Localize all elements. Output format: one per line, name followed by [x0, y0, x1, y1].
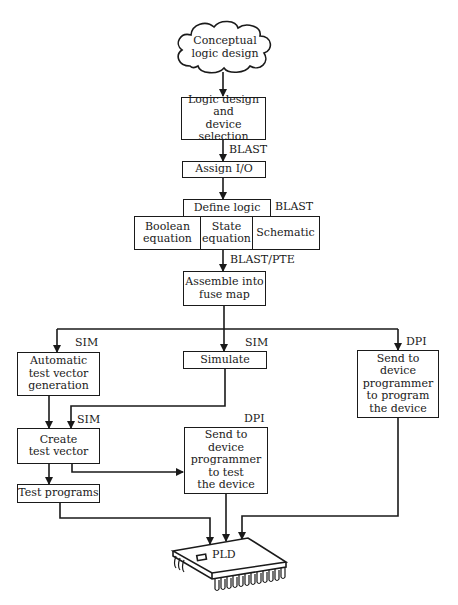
pld-label: PLD	[212, 548, 236, 561]
dpi-label: DPI	[244, 413, 265, 425]
pld-design-flowchart: Conceptual logic design Logic design and…	[0, 0, 458, 605]
boolean-equation-node: Boolean equation	[135, 217, 200, 249]
create-test-vector-node: Create test vector	[17, 428, 100, 464]
automatic-test-vector-node: Automatic test vector generation	[17, 352, 100, 396]
sim-label: SIM	[75, 337, 98, 349]
state-equation-node: State equation	[200, 217, 252, 249]
program-device-node: Send to device programmer to program the…	[357, 350, 439, 418]
blast-pte-label: BLAST/PTE	[230, 254, 295, 266]
dpi-label: DPI	[406, 336, 427, 348]
define-logic-node: Define logic	[183, 199, 271, 217]
simulate-node: Simulate	[183, 351, 267, 369]
assemble-fuse-map-node: Assemble into fuse map	[183, 271, 266, 306]
test-programs-node: Test programs	[17, 484, 100, 503]
assign-io-node: Assign I/O	[182, 161, 266, 178]
sim-label: SIM	[245, 337, 268, 349]
conceptual-logic-design-node: Conceptual logic design	[178, 28, 272, 66]
pld-chip-icon	[173, 538, 286, 591]
blast-label: BLAST	[275, 201, 313, 213]
blast-label: BLAST	[229, 144, 267, 156]
schematic-node: Schematic	[252, 217, 318, 249]
sim-label: SIM	[77, 414, 100, 426]
logic-design-node: Logic design and device selection	[181, 97, 266, 140]
test-device-node: Send to device programmer to test the de…	[184, 427, 268, 494]
logic-entry-methods: Boolean equation State equation Schemati…	[134, 216, 320, 250]
